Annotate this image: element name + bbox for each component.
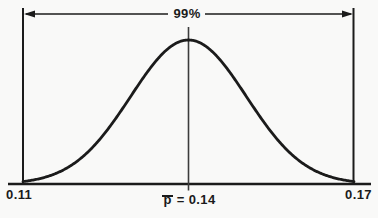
mean-value-text: = 0.14	[177, 192, 216, 207]
normal-distribution-figure: 99% 0.11 p= 0.14 0.17	[0, 0, 378, 218]
distribution-chart-canvas	[0, 0, 378, 218]
arrowhead-left-icon	[24, 11, 35, 18]
x-label-upper-bound: 0.17	[326, 188, 372, 202]
x-label-mean: p= 0.14	[139, 193, 239, 207]
arrowhead-right-icon	[342, 11, 353, 18]
p-bar-symbol: p	[162, 193, 172, 207]
ci-percentage-label: 99%	[165, 7, 209, 21]
x-label-lower-bound: 0.11	[6, 188, 50, 202]
